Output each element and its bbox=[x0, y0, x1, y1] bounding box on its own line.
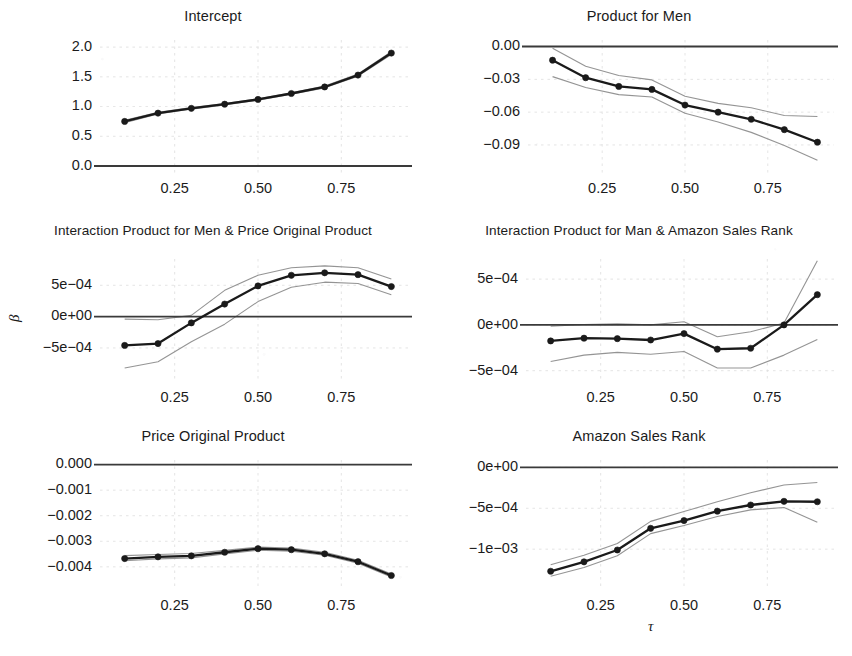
x-tick-label: 0.25 bbox=[587, 389, 615, 405]
data-point bbox=[681, 517, 687, 523]
data-point bbox=[548, 338, 554, 344]
data-point bbox=[614, 547, 620, 553]
x-tick-label: 0.50 bbox=[244, 597, 272, 613]
quantile-regression-figure: Intercept 0.00.51.01.52.00.250.500.75 Pr… bbox=[0, 0, 852, 656]
x-tick-label: 0.25 bbox=[161, 597, 189, 613]
data-point bbox=[388, 50, 394, 56]
y-tick-label: 0.000 bbox=[56, 455, 92, 471]
data-point bbox=[548, 568, 554, 574]
data-point bbox=[188, 553, 194, 559]
data-point bbox=[781, 498, 787, 504]
y-tick-label: −5e−04 bbox=[469, 499, 518, 515]
data-point bbox=[781, 127, 787, 133]
y-tick-label: −0.002 bbox=[47, 507, 92, 523]
data-point bbox=[255, 283, 261, 289]
x-tick-label: 0.75 bbox=[753, 389, 781, 405]
data-point bbox=[355, 72, 361, 78]
plot-area: 0e+00−5e−04−1e−030.250.500.75 bbox=[426, 420, 852, 656]
x-tick-label: 0.75 bbox=[327, 597, 355, 613]
y-tick-label: 0.5 bbox=[72, 127, 92, 143]
data-point bbox=[715, 109, 721, 115]
y-tick-label: 0.00 bbox=[492, 37, 520, 53]
data-point bbox=[122, 118, 128, 124]
panel-price-original-product: Price Original Product 0.000−0.001−0.002… bbox=[0, 420, 426, 656]
y-tick-label: 2.0 bbox=[72, 38, 92, 54]
x-tick-label: 0.75 bbox=[753, 597, 781, 613]
panel-amazon-sales-rank: Amazon Sales Rank 0e+00−5e−04−1e−030.250… bbox=[426, 420, 852, 656]
y-tick-label: 1.0 bbox=[72, 97, 92, 113]
gridlines bbox=[100, 460, 408, 590]
x-tick-label: 0.50 bbox=[671, 180, 699, 196]
y-tick-label: 0e+00 bbox=[477, 316, 518, 332]
data-point bbox=[155, 340, 161, 346]
y-tick-label: −5e−04 bbox=[469, 362, 518, 378]
panel-grid: Intercept 0.00.51.01.52.00.250.500.75 Pr… bbox=[0, 0, 852, 656]
data-point bbox=[288, 272, 294, 278]
data-point bbox=[255, 546, 261, 552]
data-point bbox=[714, 508, 720, 514]
data-point bbox=[549, 57, 555, 63]
data-point bbox=[288, 90, 294, 96]
x-tick-label: 0.25 bbox=[588, 180, 616, 196]
data-point bbox=[648, 337, 654, 343]
data-point bbox=[188, 105, 194, 111]
data-point-markers bbox=[122, 270, 395, 349]
x-axis-label-tau: τ bbox=[648, 618, 653, 635]
data-point bbox=[322, 551, 328, 557]
data-point bbox=[122, 342, 128, 348]
y-tick-label: −0.004 bbox=[47, 558, 92, 574]
y-tick-label: 0e+00 bbox=[51, 307, 92, 323]
data-point bbox=[388, 283, 394, 289]
x-tick-label: 0.75 bbox=[327, 389, 355, 405]
data-point bbox=[122, 555, 128, 561]
data-point bbox=[322, 270, 328, 276]
data-point bbox=[222, 101, 228, 107]
y-tick-label: −0.003 bbox=[47, 532, 92, 548]
data-point bbox=[682, 102, 688, 108]
data-point bbox=[714, 346, 720, 352]
x-tick-label: 0.75 bbox=[327, 180, 355, 196]
panel-intercept: Intercept 0.00.51.01.52.00.250.500.75 bbox=[0, 0, 426, 215]
data-point bbox=[748, 502, 754, 508]
data-point bbox=[388, 572, 394, 578]
data-point-markers bbox=[548, 498, 821, 574]
data-point bbox=[581, 335, 587, 341]
data-point bbox=[681, 331, 687, 337]
x-tick-label: 0.25 bbox=[587, 597, 615, 613]
data-point bbox=[155, 554, 161, 560]
data-point bbox=[583, 75, 589, 81]
data-point bbox=[649, 86, 655, 92]
data-point bbox=[222, 549, 228, 555]
data-point bbox=[614, 336, 620, 342]
data-point bbox=[355, 559, 361, 565]
panel-interaction-man-sales-rank: Interaction Product for Man & Amazon Sal… bbox=[426, 215, 852, 420]
y-tick-label: −0.03 bbox=[483, 70, 520, 86]
plot-area: 5e−040e+00−5e−040.250.500.75 bbox=[0, 215, 426, 420]
data-point bbox=[355, 272, 361, 278]
y-tick-label: −0.06 bbox=[483, 103, 520, 119]
data-point bbox=[748, 116, 754, 122]
data-point bbox=[155, 110, 161, 116]
y-tick-label: 5e−04 bbox=[477, 270, 518, 286]
data-point bbox=[255, 96, 261, 102]
x-tick-label: 0.75 bbox=[754, 180, 782, 196]
x-tick-label: 0.25 bbox=[161, 389, 189, 405]
y-tick-label: 5e−04 bbox=[51, 276, 92, 292]
data-point bbox=[814, 292, 820, 298]
x-tick-label: 0.50 bbox=[670, 389, 698, 405]
plot-area: 0.000−0.001−0.002−0.003−0.0040.250.500.7… bbox=[0, 420, 426, 656]
data-point bbox=[322, 84, 328, 90]
plot-area: 5e−040e+00−5e−040.250.500.75 bbox=[426, 215, 852, 420]
data-point bbox=[222, 301, 228, 307]
x-tick-label: 0.50 bbox=[244, 389, 272, 405]
y-tick-label: −0.001 bbox=[47, 481, 92, 497]
y-tick-label: −0.09 bbox=[483, 136, 520, 152]
y-tick-label: −1e−03 bbox=[469, 540, 518, 556]
data-point bbox=[814, 139, 820, 145]
data-point bbox=[748, 345, 754, 351]
data-point bbox=[188, 320, 194, 326]
y-tick-label: 0.0 bbox=[72, 157, 92, 173]
x-tick-label: 0.50 bbox=[244, 180, 272, 196]
data-point bbox=[288, 547, 294, 553]
x-tick-label: 0.50 bbox=[670, 597, 698, 613]
